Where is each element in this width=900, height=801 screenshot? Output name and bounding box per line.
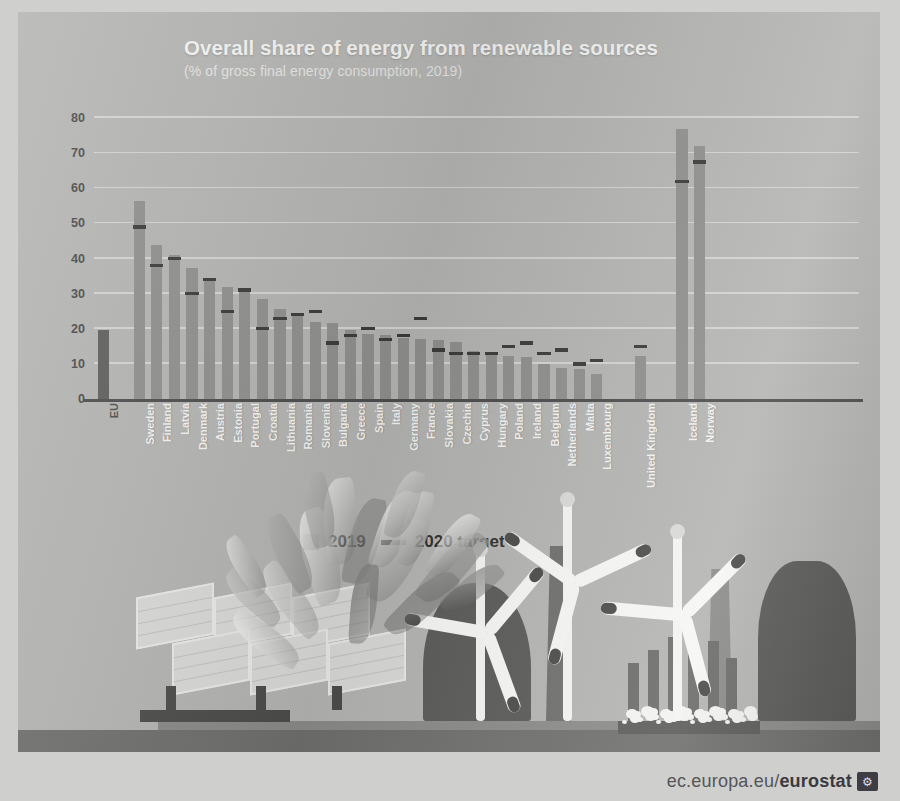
category-label: Czechia	[461, 403, 473, 445]
category-label: Bulgaria	[337, 403, 349, 447]
target-marker	[397, 334, 410, 337]
bar-group[interactable]	[694, 118, 705, 399]
bar-group[interactable]	[186, 118, 197, 399]
target-marker	[256, 327, 269, 330]
category-label: Germany	[408, 403, 420, 451]
target-marker	[361, 327, 374, 330]
bar-group[interactable]	[398, 118, 409, 399]
target-marker	[573, 362, 586, 365]
bar-group[interactable]	[345, 118, 356, 399]
energy-illustration	[18, 452, 880, 752]
bar-group[interactable]	[151, 118, 162, 399]
bar-group[interactable]	[468, 118, 479, 399]
bar-group[interactable]	[169, 118, 180, 399]
bar-group[interactable]	[292, 118, 303, 399]
category-label: Norway	[704, 403, 716, 443]
target-marker	[344, 334, 357, 337]
bar-group[interactable]	[98, 118, 109, 399]
bar-group[interactable]	[433, 118, 444, 399]
bar-group[interactable]	[556, 118, 567, 399]
target-marker	[693, 160, 706, 163]
bar-group[interactable]	[635, 118, 646, 399]
bar-group[interactable]	[486, 118, 497, 399]
bar	[98, 330, 109, 399]
bar-group[interactable]	[415, 118, 426, 399]
bar-group[interactable]	[676, 118, 687, 399]
target-marker	[273, 317, 286, 320]
y-axis-tick: 10	[71, 357, 85, 371]
target-marker	[634, 345, 647, 348]
bar-group[interactable]	[538, 118, 549, 399]
ground-strip-upper	[158, 721, 880, 730]
bar-group[interactable]	[521, 118, 532, 399]
target-marker	[185, 292, 198, 295]
foam-bubble	[740, 717, 746, 722]
bar-group[interactable]	[310, 118, 321, 399]
bar-group[interactable]	[574, 118, 585, 399]
target-marker	[432, 348, 445, 351]
wind-turbine-icon	[673, 531, 682, 721]
bar	[222, 287, 233, 399]
y-axis-tick: 70	[71, 146, 85, 160]
target-marker	[414, 317, 427, 320]
category-label: Iceland	[687, 403, 699, 441]
category-label: Austria	[214, 403, 226, 441]
target-marker	[291, 313, 304, 316]
target-marker	[555, 348, 568, 351]
bar-group[interactable]	[450, 118, 461, 399]
bar-group[interactable]	[503, 118, 514, 399]
bar-group[interactable]	[591, 118, 602, 399]
bar	[186, 268, 197, 399]
foam-bubble	[706, 717, 712, 722]
bar	[486, 355, 497, 399]
bar	[450, 342, 461, 399]
footer-branding: ec.europa.eu/eurostat ⚙	[667, 771, 878, 792]
category-label: Finland	[161, 403, 173, 442]
target-marker	[150, 264, 163, 267]
y-axis-tick: 30	[71, 287, 85, 301]
category-label: Slovakia	[443, 403, 455, 448]
turbine-hub	[560, 492, 575, 507]
bar-group[interactable]	[239, 118, 250, 399]
bar	[556, 368, 567, 399]
category-label: EU	[108, 403, 120, 418]
target-marker	[675, 180, 688, 183]
y-axis-tick: 40	[71, 252, 85, 266]
bar	[503, 356, 514, 399]
bar	[398, 338, 409, 399]
bar-group[interactable]	[327, 118, 338, 399]
bar	[169, 255, 180, 399]
foam-bubble	[637, 717, 643, 722]
bar-group[interactable]	[134, 118, 145, 399]
bar-group[interactable]	[362, 118, 373, 399]
bar-group[interactable]	[257, 118, 268, 399]
foam-bubble	[725, 720, 730, 724]
target-marker	[537, 352, 550, 355]
category-label: Spain	[373, 403, 385, 433]
foam-bubble	[747, 712, 758, 721]
target-marker	[133, 225, 146, 228]
bar	[574, 369, 585, 399]
target-marker	[238, 288, 251, 291]
footer-url-prefix: ec.europa.eu/	[667, 771, 780, 792]
category-label: Croatia	[267, 403, 279, 441]
y-axis-tick: 50	[71, 216, 85, 230]
infographic-page: Overall share of energy from renewable s…	[0, 0, 900, 801]
bar-group[interactable]	[380, 118, 391, 399]
foam-bubble	[656, 720, 661, 724]
bar	[310, 322, 321, 399]
bar	[538, 364, 549, 399]
bar	[292, 314, 303, 399]
target-marker	[485, 352, 498, 355]
bar-group[interactable]	[274, 118, 285, 399]
water-foam-icon	[622, 711, 752, 724]
target-marker	[379, 338, 392, 341]
bar-group[interactable]	[204, 118, 215, 399]
panel-support	[256, 686, 266, 710]
bar	[380, 335, 391, 399]
bar	[204, 281, 215, 399]
target-marker	[520, 341, 533, 344]
bar-group[interactable]	[222, 118, 233, 399]
category-label: Belgium	[549, 403, 561, 446]
bar	[521, 357, 532, 399]
